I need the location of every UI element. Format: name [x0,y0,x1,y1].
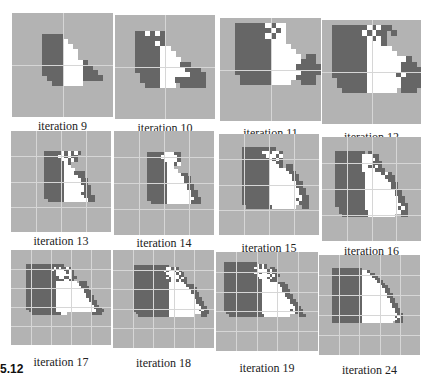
gridline [216,272,318,273]
gridline [71,250,72,345]
occupancy-grid [219,134,319,235]
dark-cell [204,314,207,317]
gridline [319,315,420,316]
dark-cell [411,88,416,94]
dark-cell [306,205,310,209]
white-cell [390,320,393,323]
gridline [380,255,381,355]
white-cell [177,162,181,166]
gridline [31,250,32,345]
gridline [319,275,420,276]
gridline [174,250,175,348]
dark-cell [99,312,102,315]
gridline [319,335,420,336]
iteration-label: iteration 14 [114,236,214,251]
gridline [113,309,214,310]
gridline [113,328,214,329]
white-cell [391,88,396,94]
gridline [216,331,318,332]
gridline [11,156,111,157]
gridline [11,288,111,289]
gridline [220,70,321,71]
iteration-label: iteration 24 [319,363,420,377]
dark-cell [78,151,82,155]
gridline [91,250,92,345]
occupancy-grid [11,250,111,345]
white-cell [78,81,84,87]
dark-cell [416,82,421,88]
gridline [11,269,111,270]
occupancy-grid [11,131,111,232]
gridline [113,270,214,271]
gridline [277,252,278,351]
gridline [236,252,237,351]
iteration-label: iteration 13 [11,234,111,249]
gridline [216,292,318,293]
gridline [322,72,421,73]
white-cell [286,80,292,86]
gridline [11,207,111,208]
gridline [219,210,319,211]
dark-cell [311,80,317,86]
gridline [133,250,134,348]
dark-cell [98,75,104,81]
dark-cell [74,158,78,162]
gridline [12,65,113,66]
dark-cell [391,30,396,36]
gridline [322,189,421,190]
white-cell [287,314,290,317]
gridline [114,157,214,158]
iteration-label: iteration 19 [216,361,318,376]
gridline [115,67,215,68]
dark-cell [197,200,201,204]
dark-cell [303,314,306,317]
gridline [114,209,214,210]
gridline [298,252,299,351]
occupancy-grid [322,20,421,124]
gridline [322,215,421,216]
gridline [219,159,319,160]
occupancy-grid [115,15,215,119]
iteration-label: iteration 17 [11,355,111,370]
gridline [339,255,340,355]
gridline [11,182,111,183]
gridline [113,289,214,290]
gridline [400,255,401,355]
gridline [216,311,318,312]
white-cell [64,312,67,315]
dark-cell [91,198,95,202]
occupancy-grid [12,13,113,117]
figure-caption-fragment: 5.12 [0,362,23,376]
gridline [51,250,52,345]
gridline [257,252,258,351]
white-cell [170,83,176,89]
gridline [11,326,111,327]
gridline [219,185,319,186]
gridline [11,307,111,308]
occupancy-grid [113,250,214,348]
iteration-label: iteration 18 [113,356,214,371]
gridline [194,250,195,348]
gridline [319,295,420,296]
occupancy-grid [216,252,318,351]
occupancy-grid [220,18,321,121]
gridline [114,183,214,184]
occupancy-grid [319,255,420,355]
occupancy-grid [322,137,421,241]
gridline [322,163,421,164]
occupancy-grid [114,131,214,235]
gridline [153,250,154,348]
dark-cell [200,83,206,89]
gridline [359,255,360,355]
